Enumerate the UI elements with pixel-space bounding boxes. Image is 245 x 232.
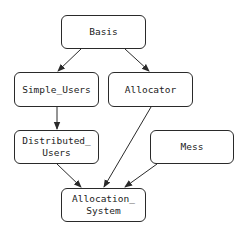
edge-distributed-users-to-allocation-system	[57, 164, 81, 187]
edge-allocator-to-allocation-system	[104, 107, 151, 187]
node-allocator: Allocator	[108, 72, 193, 107]
node-basis: Basis	[61, 15, 146, 49]
node-label: Allocator	[125, 84, 176, 96]
node-label-line-1: Allocation_	[72, 193, 135, 205]
edge-basis-to-allocator	[125, 49, 149, 71]
node-label-line-2: System	[86, 205, 120, 217]
dependency-diagram: Basis Simple_Users Allocator Distributed…	[0, 0, 245, 232]
node-label: Simple_Users	[22, 84, 91, 96]
node-label: Mess	[181, 141, 204, 153]
node-simple-users: Simple_Users	[14, 72, 99, 107]
node-label: Basis	[89, 26, 118, 38]
node-mess: Mess	[150, 130, 234, 164]
node-label-line-1: Distributed_	[22, 135, 91, 147]
edge-basis-to-simple-users	[58, 49, 81, 71]
node-label-line-2: Users	[42, 147, 71, 159]
node-distributed-users: Distributed_ Users	[14, 130, 99, 164]
edge-mess-to-allocation-system	[125, 164, 157, 187]
node-allocation-system: Allocation_ System	[61, 188, 146, 222]
